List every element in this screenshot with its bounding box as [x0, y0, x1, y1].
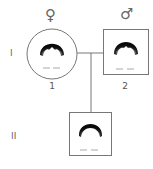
individual-number-1: 1 [46, 81, 58, 91]
individual-1-female [27, 29, 77, 79]
individual-number-2: 2 [119, 81, 131, 91]
individual-child-male [70, 113, 112, 156]
female-symbol-icon: ♀ [45, 8, 56, 23]
generation-label-ii: II [11, 131, 16, 141]
generation-label-i: I [10, 48, 13, 58]
male-symbol-icon: ♂ [120, 7, 133, 22]
individual-2-male [104, 30, 149, 75]
